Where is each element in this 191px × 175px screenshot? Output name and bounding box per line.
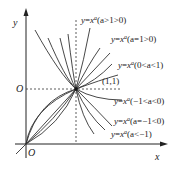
label-a-gt-1: y=xa(a>1>0) <box>80 15 126 25</box>
svg-text:y=xa(a=1>0): y=xa(a=1>0) <box>110 34 156 44</box>
point-label: (1,1) <box>102 76 119 86</box>
origin-label: O <box>28 147 35 158</box>
svg-text:y=xa(a<−1): y=xa(a<−1) <box>110 129 152 139</box>
label-a-m1-0: y=xa(−1<a<0) <box>113 96 164 106</box>
curve-a-eq-1 <box>16 53 110 154</box>
label-a-eq-1: y=xa(a=1>0) <box>110 34 156 44</box>
label-a-lt-m1: y=xa(a<−1) <box>110 129 152 139</box>
y-axis-label: y <box>12 17 18 28</box>
power-function-diagram: y x O O (1,1) y=xa(a>1>0) y=xa(a=1>0) y=… <box>0 0 191 175</box>
label-a-0-1: y=xa(0<a<1) <box>117 60 163 70</box>
x-axis-label: x <box>154 151 160 162</box>
curve-a-gt-1-steep <box>26 28 90 144</box>
curve-a-m1-0 <box>35 30 122 100</box>
svg-text:y=xa(−1<a<0): y=xa(−1<a<0) <box>113 96 164 106</box>
y-axis-arrow-icon <box>24 8 29 16</box>
point-1-1 <box>74 87 78 91</box>
svg-text:y=xa(a>1>0): y=xa(a>1>0) <box>80 15 126 25</box>
label-a-eq-m1: y=xa(a=−1<0) <box>113 116 164 126</box>
y-one-marker-label: O <box>16 83 23 94</box>
curve-a-gt-1 <box>26 48 100 144</box>
svg-text:y=xa(0<a<1): y=xa(0<a<1) <box>117 60 163 70</box>
curve-a-lt-m1 <box>60 38 105 130</box>
svg-text:y=xa(a=−1<0): y=xa(a=−1<0) <box>113 116 164 126</box>
x-axis-arrow-icon <box>160 142 168 147</box>
